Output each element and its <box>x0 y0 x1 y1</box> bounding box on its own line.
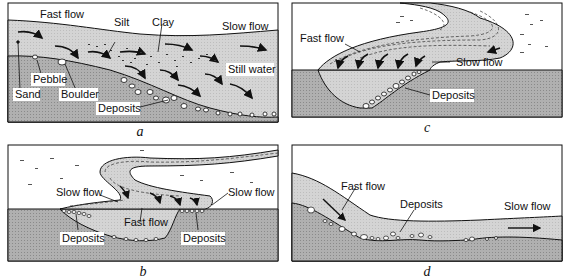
panel-d: Fast flow Deposits Slow flow d <box>292 145 562 279</box>
panel-a-label-clay: Clay <box>152 16 175 28</box>
river-deposition-diagram: Fast flow Silt Clay Slow flow Still wate… <box>0 0 569 280</box>
panel-b-label-deposits-right: Deposits <box>183 232 226 244</box>
panel-a: Fast flow Silt Clay Slow flow Still wate… <box>8 3 278 139</box>
panel-d-label-fast-flow: Fast flow <box>341 180 385 192</box>
panel-b: Slow flow Slow flow Fast flow Deposits D… <box>8 145 278 279</box>
panel-b-label-slow-flow-right: Slow flow <box>228 186 275 198</box>
panel-c-label-deposits: Deposits <box>432 89 475 101</box>
panel-c-label-slow-flow: Slow flow <box>456 56 503 68</box>
panel-a-label-sand: Sand <box>15 88 41 100</box>
panel-b-label-fast-flow: Fast flow <box>124 216 168 228</box>
panel-b-label-slow-flow-left: Slow flow <box>56 186 103 198</box>
panel-a-label-deposits: Deposits <box>98 102 141 114</box>
panel-b-label-deposits-left: Deposits <box>62 232 105 244</box>
panel-a-label-slow-flow: Slow flow <box>222 20 269 32</box>
panel-a-label-fast-flow: Fast flow <box>40 8 84 20</box>
panel-c-label-fast-flow: Fast flow <box>300 32 344 44</box>
panel-c-caption: c <box>424 120 431 135</box>
panel-c: Fast flow Slow flow Deposits c <box>292 3 562 135</box>
panel-a-label-boulder: Boulder <box>61 88 99 100</box>
panel-a-caption: a <box>137 124 144 139</box>
panel-d-label-slow-flow: Slow flow <box>504 200 551 212</box>
panel-d-label-deposits: Deposits <box>400 198 443 210</box>
panel-a-label-silt: Silt <box>114 16 129 28</box>
panel-a-label-still-water: Still water <box>228 63 276 75</box>
panel-a-label-pebble: Pebble <box>33 73 67 85</box>
panel-d-caption: d <box>424 264 432 279</box>
panel-b-caption: b <box>140 264 147 279</box>
